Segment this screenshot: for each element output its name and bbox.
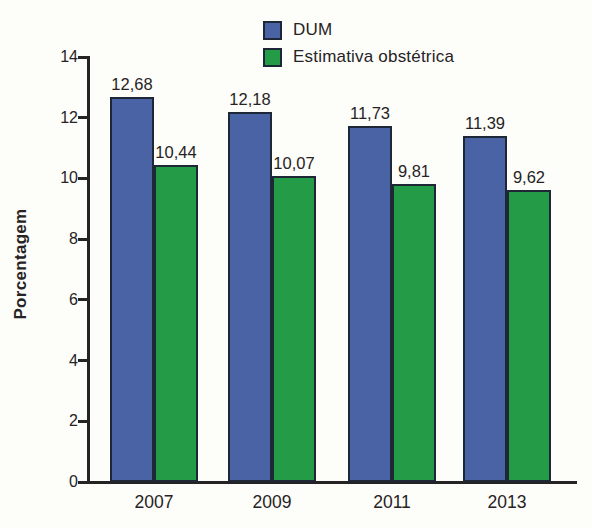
y-tick-mark [78, 238, 87, 241]
y-tick-label: 2 [42, 412, 78, 430]
bar-dum-2013 [463, 136, 507, 482]
bar-value-label: 12,18 [208, 90, 292, 108]
legend: DUM Estimativa obstétrica [263, 20, 454, 67]
y-tick-label: 0 [42, 473, 78, 491]
y-tick-label: 14 [42, 48, 78, 66]
legend-label-dum: DUM [293, 20, 332, 40]
y-tick-label: 4 [42, 352, 78, 370]
bar-value-label: 12,68 [90, 75, 174, 93]
bar-estimativa-2013 [507, 190, 551, 482]
y-tick-label: 6 [42, 291, 78, 309]
bar-chart: DUM Estimativa obstétrica Porcentagem 02… [0, 0, 592, 528]
legend-swatch-dum [263, 21, 282, 40]
y-axis-line [87, 56, 90, 484]
y-tick-label: 12 [42, 109, 78, 127]
bar-estimativa-2009 [272, 176, 316, 482]
y-tick-mark [78, 359, 87, 362]
legend-swatch-estimativa [263, 48, 282, 67]
bar-value-label: 9,62 [487, 168, 571, 186]
x-category-label: 2011 [347, 492, 437, 513]
y-tick-mark [78, 177, 87, 180]
legend-item-estimativa: Estimativa obstétrica [263, 47, 454, 67]
y-tick-mark [78, 298, 87, 301]
legend-item-dum: DUM [263, 20, 454, 40]
x-category-label: 2009 [227, 492, 317, 513]
y-axis-title: Porcentagem [11, 164, 33, 364]
bar-value-label: 11,73 [328, 104, 412, 122]
y-tick-mark [78, 420, 87, 423]
bar-value-label: 9,81 [372, 162, 456, 180]
legend-label-estimativa: Estimativa obstétrica [293, 47, 454, 67]
y-tick-label: 10 [42, 169, 78, 187]
bar-value-label: 10,07 [252, 154, 336, 172]
x-category-label: 2007 [109, 492, 199, 513]
y-tick-mark [78, 116, 87, 119]
bar-value-label: 11,39 [443, 114, 527, 132]
x-category-label: 2013 [462, 492, 552, 513]
bar-estimativa-2011 [392, 184, 436, 482]
y-tick-mark [78, 56, 87, 59]
y-tick-label: 8 [42, 230, 78, 248]
bar-estimativa-2007 [154, 165, 198, 482]
y-tick-mark [78, 481, 87, 484]
bar-value-label: 10,44 [134, 143, 218, 161]
